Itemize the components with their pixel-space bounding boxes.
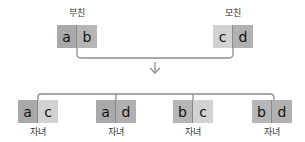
father-genotype: a b: [57, 25, 97, 48]
child-label: 자녀: [96, 125, 136, 138]
mother-genotype: c d: [213, 25, 253, 48]
allele-c: c: [38, 100, 58, 123]
allele-a: a: [96, 100, 116, 123]
allele-b: b: [173, 100, 193, 123]
child-genotype-bc: b c: [173, 100, 213, 123]
allele-d: d: [116, 100, 136, 123]
child-genotype-ac: a c: [18, 100, 58, 123]
allele-c: c: [213, 25, 233, 48]
allele-d: d: [233, 25, 253, 48]
arrow-down-icon: [150, 62, 160, 73]
child-genotype-ad: a d: [96, 100, 136, 123]
allele-b: b: [77, 25, 97, 48]
allele-d: d: [272, 100, 292, 123]
child-genotype-bd: b d: [252, 100, 292, 123]
mother-label: 모친: [213, 6, 253, 19]
allele-c: c: [193, 100, 213, 123]
father-label: 부친: [57, 6, 97, 19]
child-label: 자녀: [252, 125, 292, 138]
child-label: 자녀: [18, 125, 58, 138]
allele-b: b: [252, 100, 272, 123]
parents-connector: [77, 48, 233, 58]
allele-a: a: [57, 25, 77, 48]
child-label: 자녀: [173, 125, 213, 138]
children-connector: [38, 94, 274, 100]
allele-a: a: [18, 100, 38, 123]
